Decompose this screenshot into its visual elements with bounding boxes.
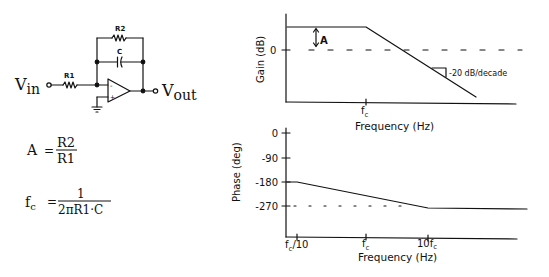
r1-label: R1 (64, 72, 74, 80)
vout-terminal (153, 89, 157, 93)
gain-curve (287, 27, 476, 97)
svg-text:2πR1·C: 2πR1·C (58, 203, 103, 217)
gain-x-axis-label: Frequency (Hz) (355, 120, 434, 132)
slope-label: -20 dB/decade (449, 69, 507, 78)
phase-y-tick-0: 0 (272, 128, 278, 139)
phase-y-tick-180: -180 (255, 177, 278, 188)
gain-y-tick-0: 0 (270, 45, 276, 56)
r1-resistor (63, 82, 77, 88)
phase-x-tick-fc-over-10: fc/10 (285, 239, 308, 253)
gain-x-tick-fc: fc (361, 105, 369, 119)
opamp-minus-sign: - (110, 82, 113, 90)
phase-x-axis (286, 237, 517, 239)
c-label: C (117, 48, 122, 56)
opamp-plus-sign: + (110, 93, 115, 100)
phase-chart (282, 128, 527, 241)
svg-text:=: = (44, 144, 54, 158)
gain-a-label: A (320, 35, 328, 46)
diagram-canvas: Vin Vout R1 R2 C - + A = R2 R1 fc = 1 2π… (0, 0, 549, 277)
svg-text:1: 1 (77, 187, 85, 201)
vout-label: Vout (161, 81, 197, 103)
svg-text:R2: R2 (57, 135, 75, 150)
svg-text:A: A (26, 142, 38, 158)
phase-y-tick-90: -90 (262, 153, 278, 164)
gain-y-axis-label: Gain (dB) (255, 36, 266, 83)
cutoff-equation: fc = 1 2πR1·C (25, 187, 111, 217)
r2-label: R2 (115, 25, 125, 33)
gain-chart (282, 14, 522, 105)
svg-text:=: = (47, 195, 57, 209)
phase-y-axis-label: Phase (deg) (231, 142, 242, 202)
ground-icon (92, 107, 102, 112)
svg-text:fc: fc (25, 194, 36, 212)
phase-curve (287, 182, 527, 209)
phase-x-tick-10fc: 10fc (417, 238, 437, 251)
gain-x-axis (286, 102, 516, 104)
phase-x-axis-label: Frequency (Hz) (358, 251, 437, 263)
svg-text:R1: R1 (57, 151, 75, 166)
vin-label: Vin (14, 75, 40, 97)
r2-resistor (112, 35, 126, 41)
phase-y-tick-270: -270 (255, 201, 278, 212)
slope-triangle (432, 68, 446, 77)
a-double-arrow (314, 29, 319, 47)
gain-equation: A = R2 R1 (26, 135, 77, 166)
